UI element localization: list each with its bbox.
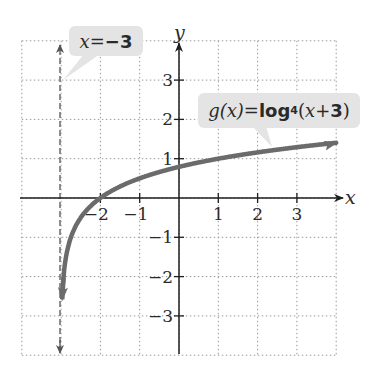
y-tick-label: 1 — [162, 149, 173, 169]
y-tick-label: −3 — [148, 306, 173, 326]
asymptote-label-var: x — [80, 31, 90, 52]
y-tick-label: 3 — [162, 70, 173, 90]
function-label-lhs: g(x) — [208, 100, 244, 121]
y-tick-label: −1 — [148, 227, 173, 247]
function-label-paren-open: ( — [298, 100, 305, 121]
x-tick-label: 2 — [252, 204, 263, 224]
x-axis-label: x — [345, 186, 356, 208]
function-label-base: 4 — [290, 104, 298, 117]
x-tick-label: 1 — [213, 204, 224, 224]
x-tick-label: −1 — [123, 204, 148, 224]
asymptote-label-value: −3 — [105, 31, 133, 52]
function-callout-tail — [252, 126, 272, 147]
asymptote-label-eq: = — [90, 31, 105, 52]
function-label-log: log — [259, 100, 290, 121]
function-label-arg-num: 3 — [330, 100, 343, 121]
function-label-eq: = — [244, 100, 259, 121]
asymptote-label: x = −3 — [69, 26, 143, 56]
function-curve-lower-arrow — [62, 278, 63, 300]
function-label-arg-var: x — [305, 100, 315, 121]
y-axis-label: y — [173, 21, 185, 43]
y-tick-label: 2 — [162, 109, 173, 129]
log-function-graph: −2−1123321−1−2−3 x y — [0, 0, 376, 375]
y-tick-label: −2 — [148, 267, 173, 287]
function-label-plus: + — [315, 100, 330, 121]
function-label-paren-close: ) — [343, 100, 350, 121]
function-label: g(x) = log4 (x + 3) — [198, 93, 360, 128]
asymptote-callout-tail — [63, 54, 100, 80]
x-tick-label: 3 — [291, 204, 302, 224]
